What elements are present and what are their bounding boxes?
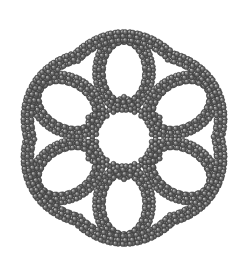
molecule-viewport <box>0 0 245 264</box>
molecular-structure-image <box>0 0 245 264</box>
